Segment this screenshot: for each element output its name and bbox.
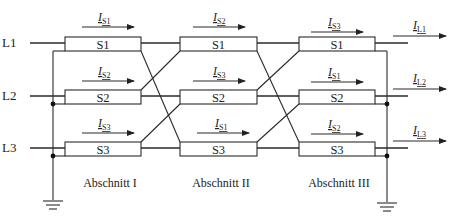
sheath-label: S3 xyxy=(330,143,343,157)
ground-icon-left xyxy=(43,201,63,209)
svg-text:IS2: IS2 xyxy=(327,117,340,133)
section-3: S1 S2 S3 Abschnitt III xyxy=(299,37,375,190)
current-subscript: S3 xyxy=(217,71,225,80)
current-arrows-section-2: IS2 IS3 IS1 xyxy=(193,10,249,133)
ground-icon-right xyxy=(377,203,397,211)
svg-text:IS1: IS1 xyxy=(327,65,340,81)
section-label: Abschnitt I xyxy=(83,176,137,190)
current-subscript: S2 xyxy=(217,17,225,26)
svg-text:IL1: IL1 xyxy=(412,18,426,34)
svg-text:IS3: IS3 xyxy=(212,64,225,80)
output-current-subscript: L1 xyxy=(417,25,426,34)
section-label: Abschnitt II xyxy=(192,176,250,190)
current-subscript: S1 xyxy=(102,17,110,26)
svg-text:IS2: IS2 xyxy=(97,64,110,80)
svg-text:IS3: IS3 xyxy=(97,116,110,132)
sheath-label: S1 xyxy=(330,38,343,52)
svg-text:IL2: IL2 xyxy=(412,71,426,87)
output-current-subscript: L3 xyxy=(417,130,426,139)
cross-bonding-diagram: L1 L2 L3 xyxy=(0,0,459,224)
svg-text:IS1: IS1 xyxy=(214,116,227,132)
output-current-arrows: IL1 IL2 IL3 xyxy=(393,18,446,141)
current-arrows-section-1: IS1 IS2 IS3 xyxy=(82,10,134,133)
svg-text:IS1: IS1 xyxy=(97,10,110,26)
svg-text:IL3: IL3 xyxy=(412,123,426,139)
output-current-subscript: L2 xyxy=(417,78,426,87)
right-grounding xyxy=(375,51,397,211)
sheath-label: S2 xyxy=(212,91,225,105)
line-label-l2: L2 xyxy=(2,88,16,103)
current-subscript: S3 xyxy=(102,123,110,132)
current-arrows-section-3: IS3 IS1 IS2 xyxy=(311,15,363,134)
left-grounding xyxy=(43,51,65,209)
svg-text:IS2: IS2 xyxy=(212,10,225,26)
line-label-l3: L3 xyxy=(2,140,16,155)
current-subscript: S3 xyxy=(332,22,340,31)
current-subscript: S2 xyxy=(332,124,340,133)
current-subscript: S2 xyxy=(102,71,110,80)
current-subscript: S1 xyxy=(219,123,227,132)
section-1: S1 S2 S3 Abschnitt I xyxy=(65,37,141,190)
sheath-label: S2 xyxy=(96,91,109,105)
section-label: Abschnitt III xyxy=(308,176,370,190)
line-label-l1: L1 xyxy=(2,35,16,50)
current-subscript: S1 xyxy=(332,72,340,81)
section-2: S1 S2 S3 Abschnitt II xyxy=(180,37,257,190)
sheath-label: S3 xyxy=(96,143,109,157)
sheath-label: S2 xyxy=(330,91,343,105)
svg-text:IS3: IS3 xyxy=(327,15,340,31)
sheath-label: S1 xyxy=(212,38,225,52)
sheath-label: S1 xyxy=(96,38,109,52)
sheath-label: S3 xyxy=(212,143,225,157)
